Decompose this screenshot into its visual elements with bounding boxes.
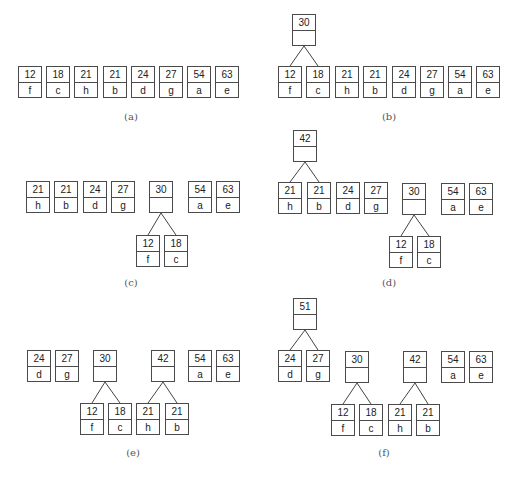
node-symbol: d — [393, 83, 415, 98]
node-weight: 63 — [470, 352, 492, 368]
node-weight: 63 — [477, 67, 499, 83]
node-weight: 12 — [81, 404, 103, 420]
tree-edge — [105, 382, 120, 403]
node-symbol: g — [112, 198, 134, 213]
node-weight: 18 — [109, 404, 131, 420]
leaf-node-c: 18c — [164, 235, 188, 267]
node-symbol: f — [19, 83, 41, 98]
tree-edge — [161, 213, 176, 235]
node-weight: 21 — [75, 67, 97, 83]
node-weight: 63 — [216, 67, 238, 83]
node-weight: 21 — [364, 67, 386, 83]
node-symbol: b — [55, 198, 77, 213]
leaf-node-e: 63e — [469, 183, 493, 215]
node-weight: 54 — [189, 182, 211, 198]
node-symbol — [404, 368, 426, 382]
node-weight: 21 — [137, 404, 159, 420]
node-symbol: a — [189, 367, 211, 382]
tree-edge — [400, 383, 415, 404]
leaf-node-e: 63e — [476, 66, 500, 98]
node-weight: 18 — [360, 405, 382, 421]
node-weight: 30 — [150, 182, 172, 198]
node-symbol: b — [166, 420, 188, 435]
node-weight: 63 — [217, 351, 239, 367]
panel-caption: (b) — [382, 111, 396, 122]
leaf-node-c: 18c — [46, 66, 70, 98]
leaf-node-c: 18c — [417, 236, 441, 268]
node-weight: 12 — [279, 67, 301, 83]
internal-node-42: 42 — [293, 130, 317, 162]
node-weight: 21 — [389, 405, 411, 421]
node-symbol: c — [109, 420, 131, 435]
tree-edge — [343, 383, 357, 404]
leaf-node-g: 27g — [159, 66, 183, 98]
node-weight: 27 — [307, 351, 329, 367]
node-weight: 42 — [404, 352, 426, 368]
node-symbol — [152, 367, 174, 381]
node-weight: 54 — [189, 351, 211, 367]
node-weight: 21 — [55, 182, 77, 198]
internal-node-30: 30 — [149, 181, 173, 213]
internal-node-30: 30 — [292, 14, 316, 46]
tree-edge — [304, 46, 318, 66]
node-symbol: a — [442, 368, 464, 383]
node-weight: 42 — [294, 131, 316, 147]
leaf-node-h: 21h — [278, 182, 302, 214]
node-weight: 54 — [449, 67, 471, 83]
node-symbol: a — [188, 83, 210, 98]
tree-edge — [148, 382, 163, 403]
node-weight: 21 — [336, 67, 358, 83]
leaf-node-c: 18c — [108, 403, 132, 435]
node-symbol: e — [470, 200, 492, 215]
node-weight: 54 — [442, 352, 464, 368]
node-weight: 18 — [165, 236, 187, 252]
node-weight: 27 — [421, 67, 443, 83]
leaf-node-h: 21h — [26, 181, 50, 213]
leaf-node-f: 12f — [136, 235, 160, 267]
leaf-node-g: 27g — [55, 350, 79, 382]
node-symbol: f — [332, 421, 354, 436]
leaf-node-f: 12f — [18, 66, 42, 98]
node-weight: 24 — [84, 182, 106, 198]
node-weight: 51 — [294, 299, 316, 315]
leaf-node-f: 12f — [389, 236, 413, 268]
panel-caption: (d) — [382, 277, 396, 288]
tree-edge — [290, 162, 305, 182]
leaf-node-b: 21b — [54, 181, 78, 213]
leaf-node-a: 54a — [188, 181, 212, 213]
node-symbol: g — [307, 367, 329, 382]
node-weight: 18 — [307, 67, 329, 83]
node-symbol: b — [104, 83, 126, 98]
node-symbol: e — [217, 198, 239, 213]
tree-edge — [163, 382, 177, 403]
node-symbol: g — [421, 83, 443, 98]
node-weight: 12 — [137, 236, 159, 252]
node-symbol: b — [364, 83, 386, 98]
tree-edge — [357, 383, 371, 404]
leaf-node-e: 63e — [469, 351, 493, 383]
node-weight: 24 — [132, 67, 154, 83]
tree-edge — [290, 46, 304, 66]
leaf-node-b: 21b — [307, 182, 331, 214]
leaf-node-h: 21h — [74, 66, 98, 98]
node-symbol: a — [449, 83, 471, 98]
tree-edge — [305, 162, 319, 182]
leaf-node-d: 24d — [392, 66, 416, 98]
node-weight: 42 — [152, 351, 174, 367]
node-weight: 18 — [47, 67, 69, 83]
node-weight: 27 — [112, 182, 134, 198]
node-symbol: f — [390, 253, 412, 268]
leaf-node-b: 21b — [165, 403, 189, 435]
node-symbol — [94, 367, 116, 381]
node-weight: 63 — [470, 184, 492, 200]
node-symbol: d — [337, 199, 359, 214]
node-weight: 63 — [217, 182, 239, 198]
node-symbol: d — [84, 198, 106, 213]
node-symbol: g — [160, 83, 182, 98]
leaf-node-a: 54a — [188, 350, 212, 382]
internal-node-30: 30 — [345, 351, 369, 383]
leaf-node-f: 12f — [278, 66, 302, 98]
node-symbol: f — [81, 420, 103, 435]
node-symbol: h — [336, 83, 358, 98]
internal-node-30: 30 — [402, 183, 426, 215]
